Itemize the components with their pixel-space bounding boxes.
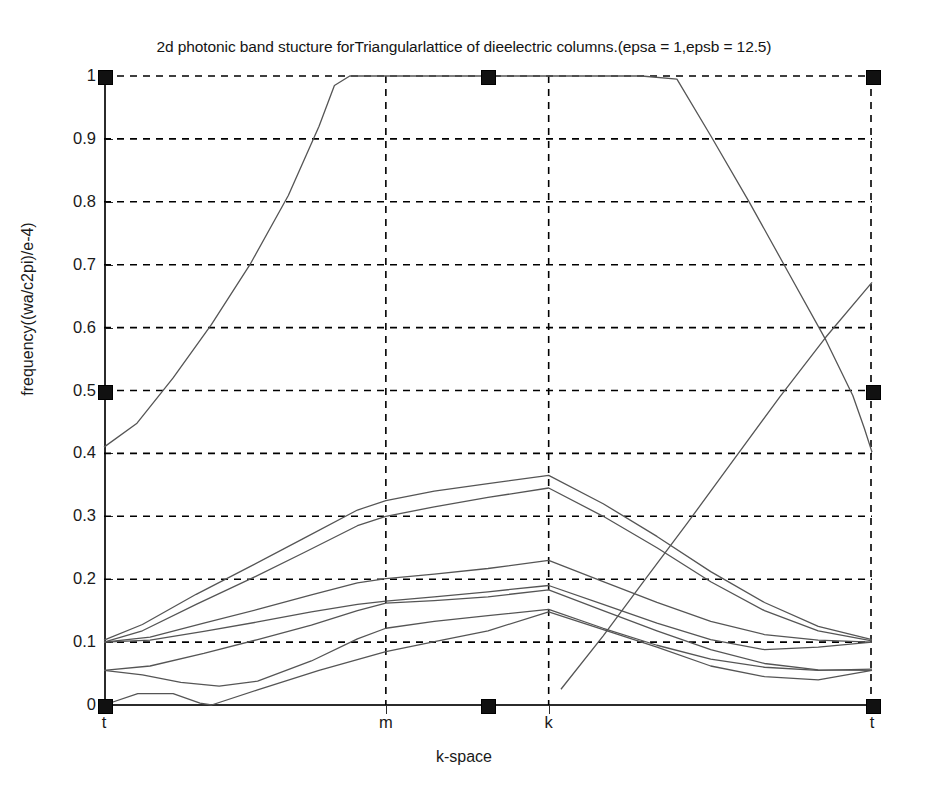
y-axis-label: frequency((wa/c2pi)/e-4) xyxy=(19,109,37,509)
y-tick-label-wrap: 0.9 xyxy=(0,130,96,147)
x-tick-label: k xyxy=(529,714,569,731)
x-tick-label: m xyxy=(366,714,406,731)
band-curve xyxy=(104,585,872,649)
plot-area xyxy=(104,76,872,705)
band-structure-plot xyxy=(104,76,872,705)
x-axis-label: k-space xyxy=(0,748,928,766)
y-tick-label: 0.8 xyxy=(0,193,96,210)
y-tick-label-wrap: 0.7 xyxy=(0,256,96,273)
y-tick-label-wrap: 0.2 xyxy=(0,570,96,587)
axis-marker-square xyxy=(866,699,881,714)
axis-marker-square xyxy=(98,699,113,714)
axis-marker-square xyxy=(98,385,113,400)
y-tick-label: 0.3 xyxy=(0,507,96,524)
y-tick-label-wrap: 0.8 xyxy=(0,193,96,210)
axis-marker-square xyxy=(481,699,496,714)
y-tick-label: 0 xyxy=(0,696,96,713)
y-tick-label: 0.2 xyxy=(0,570,96,587)
axis-marker-square xyxy=(481,70,496,85)
y-tick-label: 1 xyxy=(0,67,96,84)
x-tick-label: t xyxy=(852,714,892,731)
y-tick-label-wrap: 0 xyxy=(0,696,96,713)
axis-marker-square xyxy=(866,385,881,400)
x-tick-label: t xyxy=(84,714,124,731)
y-tick-label: 0.9 xyxy=(0,130,96,147)
y-tick-label-wrap: 0.1 xyxy=(0,633,96,650)
y-tick-label: 0.6 xyxy=(0,319,96,336)
band-curve xyxy=(104,612,872,705)
y-tick-label: 0.1 xyxy=(0,633,96,650)
y-tick-label-wrap: 0.3 xyxy=(0,507,96,524)
y-tick-label-wrap: 0.5 xyxy=(0,382,96,399)
y-tick-label-wrap: 1 xyxy=(0,67,96,84)
axis-marker-square xyxy=(98,70,113,85)
y-tick-label: 0.4 xyxy=(0,444,96,461)
band-curve xyxy=(104,560,872,642)
y-tick-label: 0.7 xyxy=(0,256,96,273)
chart-title: 2d photonic band stucture forTriangularl… xyxy=(0,38,928,56)
y-tick-label-wrap: 0.4 xyxy=(0,444,96,461)
axis-marker-square xyxy=(866,70,881,85)
y-tick-label-wrap: 0.6 xyxy=(0,319,96,336)
chart-root: 2d photonic band stucture forTriangularl… xyxy=(0,0,928,800)
y-tick-label: 0.5 xyxy=(0,382,96,399)
